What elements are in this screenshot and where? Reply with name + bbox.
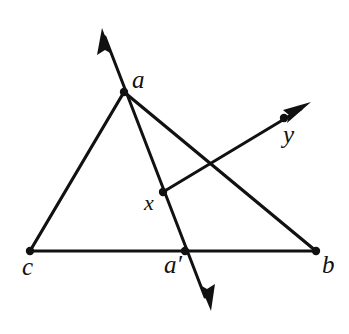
- point-a-dot: [120, 88, 128, 96]
- arrow-head-up-icon: [97, 28, 112, 55]
- point-x-dot: [159, 188, 167, 196]
- point-label-a-prime: a′: [164, 252, 182, 277]
- point-label-y: y: [283, 122, 294, 147]
- segment-ca: [30, 92, 124, 251]
- vertex-dots: [26, 88, 320, 255]
- point-b-dot: [312, 247, 320, 255]
- triangle-sides: [30, 92, 316, 251]
- diagram-canvas: [0, 0, 349, 334]
- point-label-a: a: [132, 67, 145, 92]
- ray-line-vertical: [105, 37, 205, 297]
- arrow-head-down-icon: [200, 284, 215, 311]
- point-a-prime-dot: [181, 247, 189, 255]
- point-label-x: x: [144, 192, 154, 214]
- ray-through-a-x-aprime: [97, 28, 215, 311]
- point-label-b: b: [322, 252, 335, 277]
- point-label-c: c: [22, 254, 33, 279]
- geometry-figure: a b c x a′ y: [0, 0, 349, 334]
